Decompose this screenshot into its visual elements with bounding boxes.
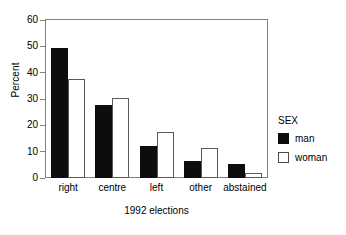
bar-group (95, 20, 129, 178)
x-axis-tick-labels: rightcentreleftotherabstained (45, 181, 268, 195)
bar-other-woman (201, 148, 218, 178)
y-axis-ticks: 0102030405060 (0, 0, 45, 235)
y-axis-tick-label: 20 (27, 119, 38, 131)
legend-swatch-man-icon (278, 133, 289, 144)
bar-other-man (184, 161, 201, 178)
bar-right-woman (68, 79, 85, 178)
bar-abstained-man (228, 164, 245, 178)
y-axis-tick-label: 60 (27, 14, 38, 26)
bar-left-woman (157, 132, 174, 178)
x-axis-title: 1992 elections (45, 205, 268, 216)
bar-chart: Percent 0102030405060 rightcentreleftoth… (0, 0, 346, 235)
bar-centre-woman (112, 98, 129, 178)
y-axis-tick-label: 50 (27, 40, 38, 52)
y-axis-tick-label: 30 (27, 93, 38, 105)
y-axis-tick-label: 40 (27, 67, 38, 79)
bar-group (51, 20, 85, 178)
bar-centre-man (95, 105, 112, 178)
legend-label-woman: woman (295, 152, 327, 163)
bars-layer (46, 20, 267, 178)
bar-left-man (140, 146, 157, 178)
x-axis-tick-label: abstained (205, 181, 285, 194)
bar-group (140, 20, 174, 178)
legend-label-man: man (295, 133, 314, 144)
y-axis-tick-label: 10 (27, 146, 38, 158)
bar-group (184, 20, 218, 178)
legend: SEX man woman (278, 115, 344, 171)
bar-abstained-woman (245, 173, 262, 178)
bar-right-man (51, 48, 68, 178)
legend-swatch-woman-icon (278, 152, 289, 163)
legend-title: SEX (278, 115, 344, 126)
legend-item-man: man (278, 133, 344, 144)
bar-group (228, 20, 262, 178)
legend-item-woman: woman (278, 152, 344, 163)
